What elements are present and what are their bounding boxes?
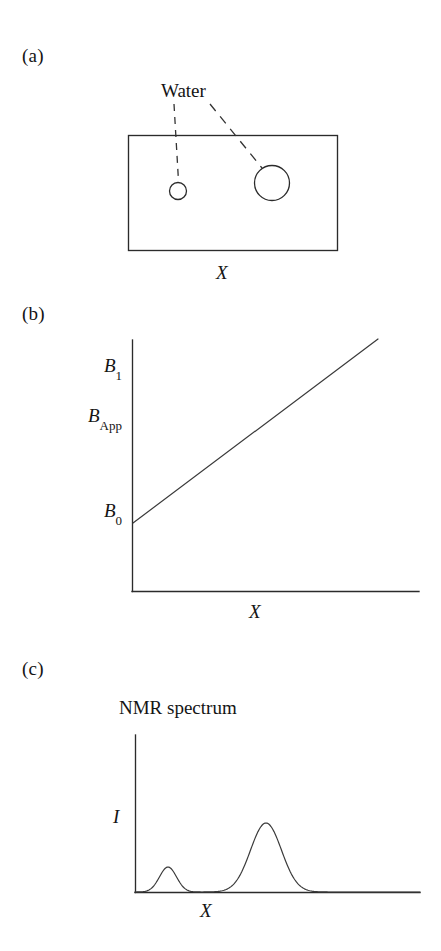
panel-b-x-axis-label: X bbox=[249, 601, 261, 623]
panel-c-label: (c) bbox=[22, 658, 44, 680]
large-water-droplet bbox=[255, 166, 290, 201]
panel-c-y-axis-label: I bbox=[113, 806, 119, 828]
leader-line-large-droplet bbox=[210, 104, 262, 168]
b0-subscript: 0 bbox=[116, 513, 123, 528]
bapp-subscript: App bbox=[100, 418, 122, 433]
water-annotation-label: Water bbox=[161, 80, 206, 102]
bapp-tick-label: BApp bbox=[48, 405, 122, 431]
panel-a-label: (a) bbox=[22, 45, 44, 67]
b0-tick-label: B0 bbox=[70, 500, 122, 526]
sample-rectangle bbox=[129, 136, 338, 251]
panel-c-title: NMR spectrum bbox=[119, 697, 237, 719]
nmr-spectrum-trace bbox=[135, 823, 420, 892]
panel-b-label: (b) bbox=[22, 303, 45, 325]
leader-line-small-droplet bbox=[174, 104, 179, 181]
b1-symbol: B bbox=[104, 355, 116, 376]
b1-tick-label: B1 bbox=[70, 355, 122, 381]
b1-subscript: 1 bbox=[116, 368, 123, 383]
figure-vector-layer bbox=[0, 0, 441, 951]
panel-c-x-axis-label: X bbox=[200, 900, 212, 922]
panel-b-gradient-line bbox=[133, 339, 378, 523]
small-water-droplet bbox=[170, 183, 187, 200]
panel-a-x-axis-label: X bbox=[216, 262, 228, 284]
figure-container: (a) Water X (b) B1 BApp B0 X (c) NMR spe… bbox=[0, 0, 441, 951]
b0-symbol: B bbox=[104, 500, 116, 521]
bapp-symbol: B bbox=[88, 405, 100, 426]
